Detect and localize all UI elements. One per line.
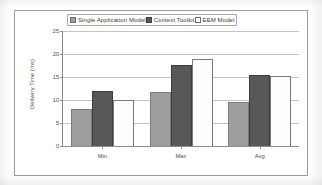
bar[interactable] [249, 75, 270, 146]
x-axis-tick-mark [102, 146, 103, 149]
chart-legend: Single Application Model Context Toolkit… [67, 14, 237, 26]
bar[interactable] [171, 65, 192, 146]
legend-label: Context Toolkit [154, 17, 195, 24]
x-axis-tick-mark [181, 146, 182, 149]
legend-swatch-icon [195, 17, 201, 23]
y-axis-tick-label: 10 [53, 97, 59, 103]
x-axis-tick-label: Min [98, 153, 107, 159]
legend-swatch-icon [146, 17, 152, 23]
x-axis-tick-label: Avg [255, 153, 265, 159]
y-axis-tick-label: 20 [53, 51, 59, 57]
bar-group: Avg [220, 31, 299, 146]
legend-label: Single Application Model [78, 17, 146, 24]
bar[interactable] [113, 100, 134, 146]
legend-label: EEM Model [203, 17, 235, 24]
y-axis-tick-label: 0 [56, 143, 59, 149]
bar-group: Min [63, 31, 142, 146]
bar[interactable] [92, 91, 113, 146]
y-axis-tick-label: 25 [53, 28, 59, 34]
y-axis-title: Delivery Time (ms) [29, 36, 35, 132]
bar[interactable] [228, 102, 249, 146]
legend-swatch-icon [70, 17, 76, 23]
legend-item-single-application-model: Single Application Model [70, 17, 146, 24]
legend-item-context-toolkit: Context Toolkit [146, 17, 195, 24]
bar[interactable] [192, 59, 213, 146]
bar-groups: MinMaxAvg [63, 31, 299, 146]
legend-item-eem-model: EEM Model [195, 17, 235, 24]
plot-area: 0510152025 MinMaxAvg [62, 31, 299, 147]
bar[interactable] [71, 109, 92, 146]
y-axis-tick-label: 15 [53, 74, 59, 80]
bar[interactable] [270, 76, 291, 146]
x-axis-tick-label: Max [176, 153, 187, 159]
bar[interactable] [150, 92, 171, 146]
bar-group: Max [142, 31, 221, 146]
chart-frame: Single Application Model Context Toolkit… [14, 10, 308, 176]
scanned-page: Single Application Model Context Toolkit… [0, 0, 322, 185]
y-axis-tick-mark [60, 146, 63, 147]
y-axis-tick-label: 5 [56, 120, 59, 126]
x-axis-tick-mark [260, 146, 261, 149]
